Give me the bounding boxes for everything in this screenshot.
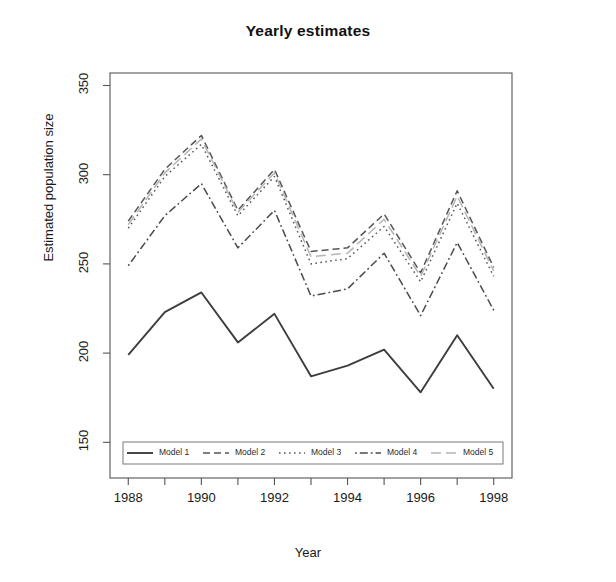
x-tick-label: 1998 (469, 490, 519, 505)
x-tick-label: 1996 (396, 490, 446, 505)
x-tick-label: 1994 (323, 490, 373, 505)
y-tick-label: 250 (76, 242, 91, 282)
x-tick-label: 1988 (103, 490, 153, 505)
y-tick-label: 150 (76, 421, 91, 461)
y-tick-label: 300 (76, 153, 91, 193)
series-line-3 (128, 144, 493, 281)
legend-label-3: Model 3 (311, 447, 341, 457)
legend-label-2: Model 2 (235, 447, 265, 457)
series-line-4 (128, 184, 493, 316)
series-line-2 (128, 135, 493, 272)
legend-label-1: Model 1 (159, 447, 189, 457)
axis-frame (110, 73, 512, 478)
y-tick-label: 200 (76, 332, 91, 372)
x-tick-label: 1990 (176, 490, 226, 505)
series-line-5 (128, 139, 493, 276)
legend-label-5: Model 5 (463, 447, 493, 457)
series-line-1 (128, 292, 493, 392)
legend-label-4: Model 4 (387, 447, 417, 457)
series-lines (128, 135, 493, 392)
y-tick-label: 350 (76, 64, 91, 104)
chart-figure: Yearly estimates Estimated population si… (0, 0, 616, 582)
x-tick-label: 1992 (249, 490, 299, 505)
tick-marks (103, 85, 494, 485)
plot-area (0, 0, 616, 582)
